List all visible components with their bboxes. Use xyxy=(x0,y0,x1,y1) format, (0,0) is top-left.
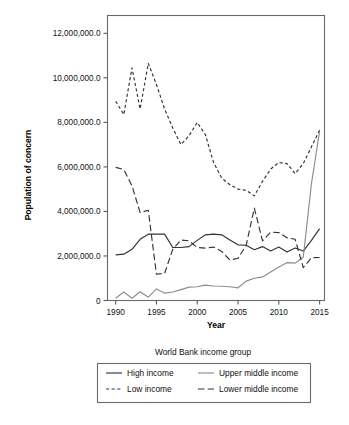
x-tick-label: 2000 xyxy=(188,308,207,317)
x-axis-ticks xyxy=(116,301,320,305)
legend-label-low-income: Low income xyxy=(127,384,172,394)
legend-label-lower-middle-income: Lower middle income xyxy=(219,384,298,394)
x-tick-label: 1995 xyxy=(147,308,166,317)
x-tick-label: 2015 xyxy=(310,308,329,317)
y-tick-label: 6,000,000.0 xyxy=(57,163,101,172)
x-axis-title: Year xyxy=(207,320,226,330)
series-line-high-income xyxy=(116,229,320,255)
series-line-low-income xyxy=(116,63,320,195)
legend-label-upper-middle-income: Upper middle income xyxy=(219,368,298,378)
x-axis-tick-labels: 199019952000200520102015 xyxy=(107,308,330,317)
y-tick-label: 4,000,000.0 xyxy=(57,207,101,216)
legend-title: World Bank income group xyxy=(155,347,252,357)
legend-label-high-income: High income xyxy=(127,368,174,378)
population-of-concern-line-chart: Population of concern 02,000,000.04,000,… xyxy=(0,0,349,425)
y-tick-label: 10,000,000.0 xyxy=(53,74,101,83)
y-tick-label: 0 xyxy=(96,297,101,306)
x-tick-label: 2010 xyxy=(270,308,289,317)
x-tick-label: 1990 xyxy=(107,308,126,317)
y-tick-label: 12,000,000.0 xyxy=(53,29,101,38)
x-tick-label: 2005 xyxy=(229,308,248,317)
y-axis-tick-labels: 02,000,000.04,000,000.06,000,000.08,000,… xyxy=(53,29,101,305)
figure-container: Population of concern 02,000,000.04,000,… xyxy=(0,0,349,425)
y-axis-ticks xyxy=(104,33,108,300)
legend-entries-group: High incomeUpper middle incomeLow income… xyxy=(106,368,298,394)
series-line-lower-middle-income xyxy=(116,167,320,274)
y-tick-label: 2,000,000.0 xyxy=(57,252,101,261)
y-axis-title: Population of concern xyxy=(23,130,33,221)
data-series-group xyxy=(116,63,320,298)
y-tick-label: 8,000,000.0 xyxy=(57,118,101,127)
plot-frame xyxy=(108,16,325,301)
series-line-upper-middle-income xyxy=(116,131,320,298)
